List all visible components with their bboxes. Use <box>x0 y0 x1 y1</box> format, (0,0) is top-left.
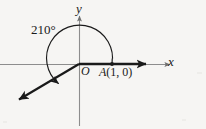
angle-diagram-figure: y x O A(1, 0) 210° <box>0 0 206 129</box>
origin-label: O <box>81 65 90 77</box>
point-a-label: A(1, 0) <box>99 66 132 78</box>
y-axis-label: y <box>76 2 82 15</box>
x-axis-label: x <box>168 55 174 68</box>
angle-measure-label: 210° <box>31 23 56 36</box>
point-a-coordinates: (1, 0) <box>106 65 132 79</box>
